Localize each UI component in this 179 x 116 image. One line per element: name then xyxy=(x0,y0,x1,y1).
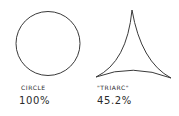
circle-shape xyxy=(16,12,80,76)
triarc-label: "TRIARC" xyxy=(97,84,129,91)
circle-label: CIRCLE xyxy=(21,84,46,91)
triarc-percentage: 45.2% xyxy=(97,95,132,106)
triarc-shape xyxy=(96,10,171,78)
circle-percentage: 100% xyxy=(19,95,50,106)
